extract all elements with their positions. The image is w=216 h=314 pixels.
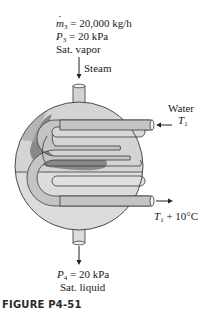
outlet-pressure-value: = 20 kPa [70,268,109,280]
water-outlet-temp-subscript: 1 [160,216,164,224]
water-inlet-tube [60,120,152,130]
water-outlet-tube [60,196,152,206]
outlet-state-label: Sat. liquid [60,281,105,293]
condensate-outlet-arrowhead [77,260,82,265]
steam-inlet-arrowhead [77,74,82,79]
steam-label: Steam [84,62,112,74]
condensate-outlet-nozzle-opening [73,241,85,245]
steam-inlet-nozzle [73,86,85,104]
outlet-pressure-symbol: P [57,268,64,280]
water-outlet-temp-label: T1 + 10°C [154,210,198,226]
steam-inlet-nozzle-opening [73,84,85,88]
water-inlet-arrowhead [156,123,161,128]
condenser-diagram [0,0,216,314]
figure-caption: FIGURE P4-51 [2,299,82,310]
water-outlet-tube-opening [150,196,154,206]
mass-flow-symbol: m· [56,17,64,29]
inlet-state-label: Sat. vapor [56,43,101,55]
mass-flow-value: = 20,000 kg/h [70,17,132,29]
tube-inner-channel-lower [52,176,145,186]
water-inlet-label: Water [168,102,194,114]
water-outlet-temp-suffix: + 10°C [166,210,198,222]
inlet-pressure-value: = 20 kPa [69,30,108,42]
water-inlet-temp-subscript: 1 [184,120,188,128]
water-outlet-arrowhead [168,199,173,204]
water-inlet-tube-opening [150,120,154,130]
inlet-pressure-symbol: P [56,30,63,42]
water-inlet-temp-label: T1 [178,114,188,130]
